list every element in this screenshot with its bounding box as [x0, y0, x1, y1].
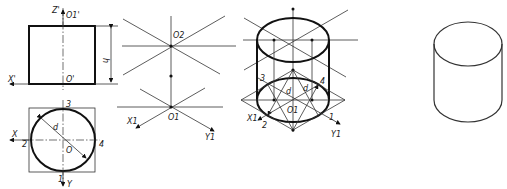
label-z: Z' — [51, 6, 60, 15]
label-d-right: d — [303, 84, 309, 93]
label-y1: Y1 — [205, 133, 215, 142]
top-view: X Y O d 1 2 3 4 — [10, 100, 104, 189]
label-1: 1 — [58, 175, 63, 184]
isometric-construction: O1 X1 Y1 d d 1 2 3 4 — [241, 8, 358, 140]
label-o1-prime: O1' — [66, 11, 80, 20]
label-3: 3 — [66, 100, 71, 109]
label-d-left: d — [286, 87, 292, 96]
label-o-prime: O' — [66, 75, 75, 84]
label-o1: O1 — [287, 106, 298, 115]
label-o2: O2 — [173, 31, 184, 40]
label-1: 1 — [329, 113, 334, 122]
label-2: 2 — [262, 121, 267, 130]
front-view-rectangle — [29, 26, 95, 84]
label-2: 2 — [22, 140, 27, 149]
label-d: d — [53, 123, 59, 132]
cylinder-isometric-drawing: Z' O1' O' X' h X Y O d 1 2 3 4 O2 O1 — [0, 0, 507, 189]
y1-axis-arrow — [140, 89, 214, 131]
cylinder-bottom — [434, 100, 502, 122]
label-4: 4 — [320, 77, 325, 86]
label-o1: O1 — [168, 113, 179, 122]
label-x1: X1 — [246, 114, 258, 123]
cylinder-top — [434, 22, 502, 66]
label-h: h — [101, 58, 110, 63]
front-view: Z' O1' O' X' h — [7, 6, 118, 90]
diameter-dimension — [41, 118, 86, 158]
label-o: O — [66, 146, 72, 155]
label-x-prime: X' — [7, 75, 16, 84]
label-x1: X1 — [126, 117, 138, 126]
label-4: 4 — [99, 140, 104, 149]
label-y1: Y1 — [331, 130, 341, 139]
label-y: Y — [67, 180, 73, 189]
axes-construction: O2 O1 X1 Y1 — [117, 16, 236, 142]
final-cylinder — [434, 22, 502, 122]
label-x: X — [11, 130, 18, 139]
label-3: 3 — [260, 74, 265, 83]
